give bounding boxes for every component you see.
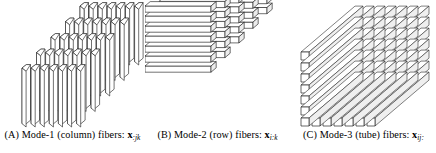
caption-tag-c: (C) xyxy=(303,129,317,140)
caption-mode-2: (B) Mode-2 (row) fibers: xi:k xyxy=(145,128,290,144)
caption-text-c: Mode-3 (tube) fibers: xyxy=(320,129,410,140)
caption-mode-3: (C) Mode-3 (tube) fibers: xij: xyxy=(291,128,436,144)
mode-2-illustration xyxy=(145,0,290,130)
mode-3-illustration xyxy=(291,0,436,130)
caption-subscript-a: :jk xyxy=(133,133,141,142)
panel-mode-1: (A) Mode-1 (column) fibers: x:jk xyxy=(0,0,145,153)
panel-mode-2: (B) Mode-2 (row) fibers: xi:k xyxy=(145,0,290,153)
panel-mode-3: (C) Mode-3 (tube) fibers: xij: xyxy=(291,0,436,153)
caption-mode-1: (A) Mode-1 (column) fibers: x:jk xyxy=(0,128,145,144)
caption-subscript-c: ij: xyxy=(417,133,424,142)
caption-text-a: Mode-1 (column) fibers: xyxy=(22,129,125,140)
tensor-fiber-figure: (A) Mode-1 (column) fibers: x:jk xyxy=(0,0,436,153)
caption-text-b: Mode-2 (row) fibers: xyxy=(174,129,262,140)
caption-subscript-b: i:k xyxy=(270,133,278,142)
mode-1-illustration xyxy=(0,0,145,130)
caption-tag-a: (A) xyxy=(5,129,19,140)
caption-tag-b: (B) xyxy=(157,129,171,140)
